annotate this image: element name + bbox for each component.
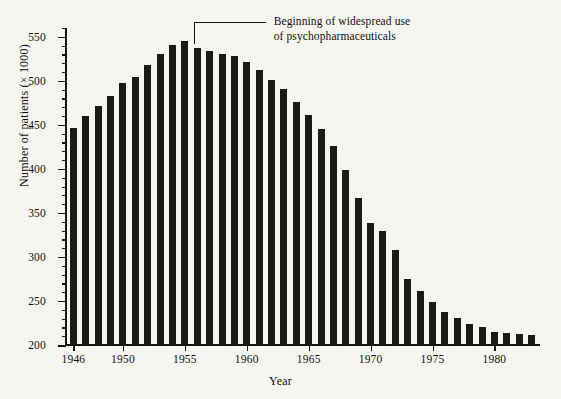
x-axis-tick-label: 1955 — [173, 353, 197, 365]
bar — [95, 106, 102, 346]
bar — [417, 291, 424, 345]
x-axis-tick — [185, 346, 186, 351]
y-axis-tick-label: 400 — [28, 163, 46, 175]
y-axis-tick-label: 550 — [28, 31, 46, 43]
bar — [528, 335, 535, 345]
x-axis-title: Year — [0, 374, 561, 389]
x-axis-tick-label: 1980 — [483, 353, 507, 365]
annotation-psychopharmaceuticals: Beginning of widespread use of psychopha… — [194, 14, 494, 60]
bar — [206, 51, 213, 345]
bar — [144, 65, 151, 345]
bar — [379, 231, 386, 345]
bar — [392, 250, 399, 345]
bar — [132, 77, 139, 345]
bar — [194, 48, 201, 345]
x-axis-tick — [73, 346, 74, 351]
x-axis-tick-label: 1950 — [111, 353, 135, 365]
bar — [330, 146, 337, 345]
y-axis-tick-label: 500 — [28, 75, 46, 87]
bar — [293, 102, 300, 345]
x-axis-tick-label: 1965 — [297, 353, 321, 365]
bar — [256, 70, 263, 345]
bar — [82, 116, 89, 345]
bar — [479, 327, 486, 345]
bar — [355, 198, 362, 345]
x-axis-tick — [309, 346, 310, 351]
x-axis-tick-label: 1975 — [421, 353, 445, 365]
bar — [268, 80, 275, 345]
bar — [429, 302, 436, 345]
bar — [516, 334, 523, 345]
y-axis-tick-label: 350 — [28, 207, 46, 219]
y-axis-tick-label: 450 — [28, 119, 46, 131]
x-axis-ticks — [66, 346, 540, 352]
annotation-line-2: of psychopharmaceuticals — [274, 29, 489, 44]
bar — [404, 279, 411, 345]
bar — [454, 318, 461, 345]
bar — [280, 89, 287, 345]
x-axis-tick — [371, 346, 372, 351]
annotation-pointer-leg — [194, 22, 195, 44]
bar — [119, 83, 126, 345]
annotation-line-1: Beginning of widespread use — [274, 14, 489, 29]
bar — [181, 41, 188, 345]
x-axis-tick-label: 1946 — [62, 353, 86, 365]
annotation-text: Beginning of widespread use of psychopha… — [274, 14, 489, 44]
bar — [70, 128, 77, 345]
bar — [219, 54, 226, 345]
y-axis-tick-label: 250 — [28, 295, 46, 307]
bar — [318, 129, 325, 345]
x-axis-tick — [433, 346, 434, 351]
bar — [305, 115, 312, 345]
bar — [169, 45, 176, 345]
x-axis-tick-label: 1960 — [235, 353, 259, 365]
y-axis-tick-label: 300 — [28, 251, 46, 263]
bar — [231, 56, 238, 345]
bar — [491, 332, 498, 345]
bar — [342, 170, 349, 345]
y-axis-ticks — [49, 28, 66, 346]
y-axis-tick-label: 200 — [28, 339, 46, 351]
bar — [367, 223, 374, 345]
bar — [503, 333, 510, 345]
bar — [107, 96, 114, 345]
x-axis-tick-label: 1970 — [359, 353, 383, 365]
chart-figure: Number of patients (× 1000) 200250300350… — [0, 0, 561, 399]
bar — [441, 312, 448, 345]
x-axis-tick — [123, 346, 124, 351]
x-axis-tick — [247, 346, 248, 351]
x-axis-labels: 19461950195519601965197019751980 — [66, 353, 540, 369]
x-axis-tick — [494, 346, 495, 351]
annotation-pointer-arm — [194, 22, 266, 23]
bar — [243, 62, 250, 345]
plot-area — [66, 28, 539, 345]
bar — [157, 54, 164, 345]
bar — [466, 324, 473, 345]
